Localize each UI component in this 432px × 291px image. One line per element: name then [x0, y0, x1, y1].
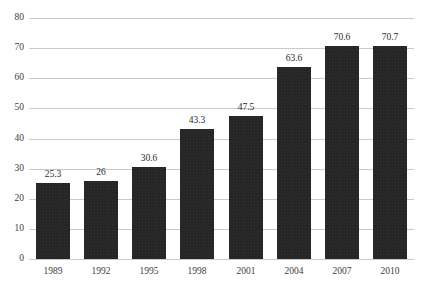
x-axis-tick-label: 1995	[124, 267, 174, 277]
x-axis-tick-label: 1998	[172, 267, 222, 277]
x-axis-tick-label: 2010	[365, 267, 415, 277]
x-axis-tick-label: 2004	[269, 267, 319, 277]
x-axis-tick-label: 2001	[221, 267, 271, 277]
x-axis-tick-label: 1992	[76, 267, 126, 277]
bar-chart: 01020304050607080 25.32630.643.347.563.6…	[0, 0, 432, 291]
x-axis-tick-label: 2007	[317, 267, 367, 277]
x-axis-category-labels: 19891992199519982001200420072010	[0, 0, 432, 291]
x-axis-tick-label: 1989	[28, 267, 78, 277]
